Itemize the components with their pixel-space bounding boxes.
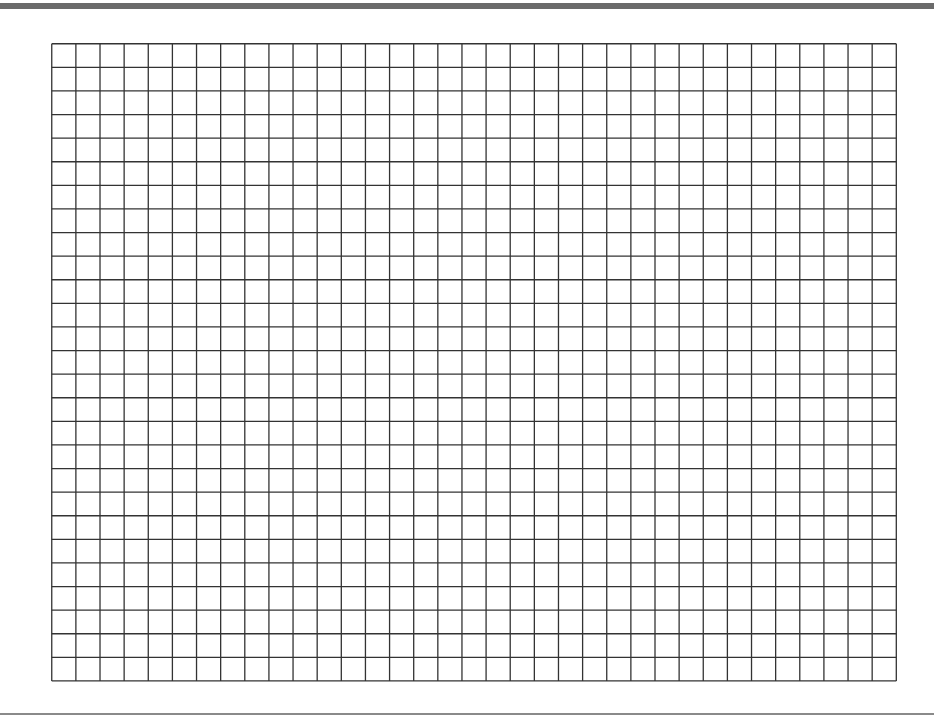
bottom-border-rule — [0, 713, 934, 715]
graph-paper-grid — [51, 43, 898, 683]
grid-lines — [51, 43, 898, 683]
top-border-rule — [0, 3, 934, 9]
